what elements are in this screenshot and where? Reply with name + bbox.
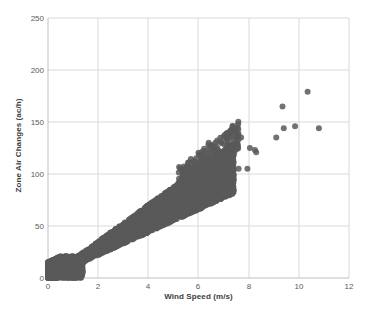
ytick-label-250: 250: [20, 14, 44, 23]
ytick-label-50: 50: [20, 222, 44, 231]
xtick-label-2: 2: [88, 282, 108, 291]
y-axis-title: Zone Air Changes (ac/h): [14, 66, 23, 226]
ytick-label-150: 150: [20, 118, 44, 127]
xtick-label-0: 0: [38, 282, 58, 291]
xtick-label-10: 10: [289, 282, 309, 291]
ytick-label-100: 100: [20, 170, 44, 179]
xtick-label-6: 6: [188, 282, 208, 291]
grid-lines: [48, 18, 349, 278]
xtick-label-4: 4: [138, 282, 158, 291]
scatter-chart-figure: 250 200 150 100 50 0 0 2 4 6 8 10 12 Win…: [0, 0, 373, 326]
ytick-label-200: 200: [20, 66, 44, 75]
xtick-label-12: 12: [339, 282, 359, 291]
data-points-layer: [45, 89, 322, 281]
plot-canvas: [0, 0, 373, 326]
x-axis-title: Wind Speed (m/s): [48, 292, 349, 301]
xtick-label-8: 8: [239, 282, 259, 291]
